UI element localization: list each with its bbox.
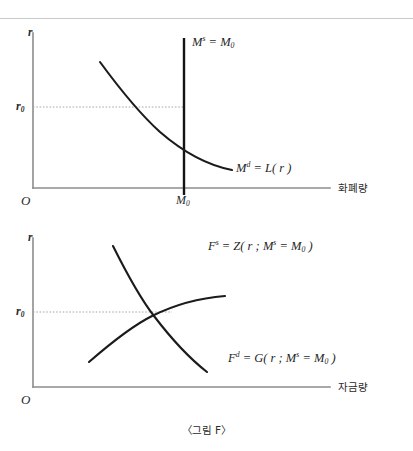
loanable-funds-chart: r O r0 자금량 Fs = Z( r ; Ms = M0 ) Fd = G(… (0, 228, 413, 403)
funds-supply-close: ) (305, 239, 312, 253)
funds-y-axis-label: r (28, 232, 32, 244)
funds-supply-m0-base: M (291, 239, 301, 253)
money-demand-fn: L (265, 161, 272, 175)
header-divider (0, 18, 413, 19)
funds-supply-curve (113, 246, 207, 372)
money-origin-label: O (21, 194, 30, 207)
funds-demand-eq: = (243, 351, 251, 365)
money-m0-sub: 0 (186, 199, 190, 208)
money-demand-arg: ( r ) (272, 161, 291, 175)
funds-supply-open: ( r ; (240, 239, 263, 253)
figure-caption: 〈그림 F〉 (0, 422, 413, 437)
funds-supply-eq2: = (279, 239, 287, 253)
funds-supply-label: Fs = Z( r ; Ms = M0 ) (208, 239, 313, 254)
funds-supply-eq: = (222, 239, 230, 253)
money-supply-rhs-sub: 0 (231, 41, 235, 50)
funds-demand-eq2: = (302, 351, 310, 365)
funds-origin-label: O (21, 393, 30, 406)
money-supply-rhs-base: M (220, 35, 230, 49)
funds-supply-base: F (208, 239, 216, 253)
funds-x-axis-label: 자금량 (338, 382, 367, 393)
funds-demand-label: Fd = G( r ; Ms = M0 ) (228, 351, 336, 366)
money-demand-base: M (236, 161, 246, 175)
money-r0-tick: r0 (16, 100, 24, 113)
funds-r0-sub: 0 (21, 310, 25, 319)
money-m0-tick: M0 (176, 194, 190, 207)
money-supply-base: M (192, 35, 202, 49)
money-supply-eq: = (209, 35, 217, 49)
loanable-funds-plot (0, 228, 413, 403)
funds-demand-base: F (228, 351, 236, 365)
money-m0-base: M (176, 193, 186, 207)
money-demand-label: Md = L( r ) (236, 161, 291, 175)
funds-demand-m-base: M (286, 351, 296, 365)
money-market-chart: r O r0 M0 화폐량 Ms = M0 Md = L( r ) (0, 22, 413, 222)
money-r0-sub: 0 (21, 105, 25, 114)
figure-container: r O r0 M0 화폐량 Ms = M0 Md = L( r ) r O r0… (0, 0, 413, 451)
money-x-axis-label: 화폐량 (338, 183, 367, 194)
funds-demand-curve (89, 296, 225, 362)
funds-r0-tick: r0 (16, 305, 24, 318)
funds-supply-m-base: M (263, 239, 273, 253)
funds-demand-open: ( r ; (263, 351, 286, 365)
money-demand-curve (100, 62, 232, 170)
funds-demand-m0-base: M (314, 351, 324, 365)
money-supply-label: Ms = M0 (192, 35, 234, 50)
money-demand-eq: = (253, 161, 261, 175)
money-y-axis-label: r (28, 27, 32, 39)
funds-demand-close: ) (328, 351, 335, 365)
funds-demand-fn: G (254, 351, 263, 365)
